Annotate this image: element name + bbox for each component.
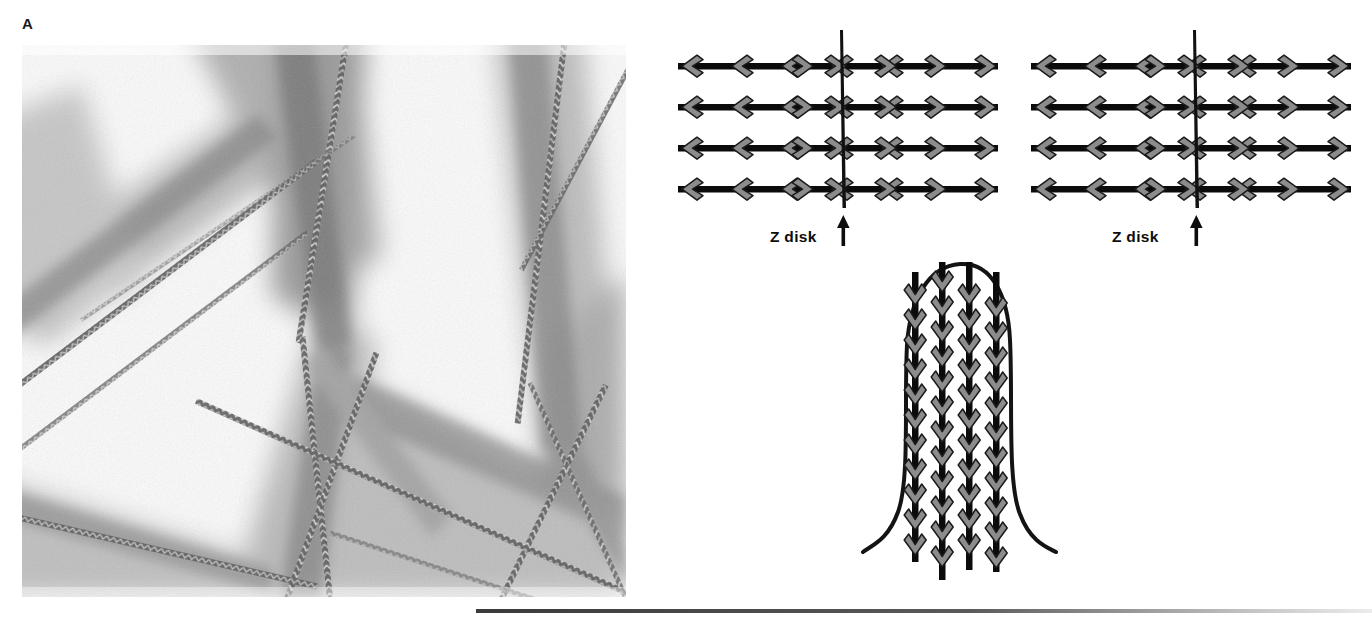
z-disk-pointer-left <box>837 215 850 246</box>
actin-shafts-left <box>678 63 998 193</box>
panel-letter-a: A <box>22 15 33 32</box>
micrograph-image <box>22 45 626 597</box>
microvillus-diagram <box>863 262 1056 580</box>
figure-root: A <box>0 0 1372 623</box>
microvillus-shafts <box>912 262 1000 580</box>
bottom-divider-rule <box>476 609 1372 613</box>
micrograph-panel-a <box>22 45 626 597</box>
z-disk-label-right: Z disk <box>1112 228 1159 246</box>
actin-barbs-left-half-2 <box>1035 55 1256 200</box>
actin-shafts-right <box>1031 63 1351 193</box>
sarcomere-diagram-right <box>1031 30 1351 246</box>
actin-barbs-right-half-2 <box>1145 55 1349 200</box>
microvillus-membrane <box>863 264 1056 552</box>
z-disk-label-left: Z disk <box>770 228 817 246</box>
z-disk-pointer-right <box>1190 215 1203 246</box>
sarcomere-diagram-left <box>678 30 998 246</box>
diagram-panel <box>660 0 1372 623</box>
actin-barbs-right-half <box>792 55 996 200</box>
diagram-svg <box>660 0 1372 623</box>
actin-barbs-left-half <box>682 55 903 200</box>
